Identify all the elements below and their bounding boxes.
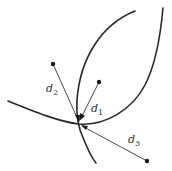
point-d3: [145, 159, 149, 163]
point-d2: [51, 62, 55, 66]
curve-b: [8, 8, 163, 124]
arrowhead-d1-icon: [79, 113, 85, 121]
point-d1: [97, 80, 101, 84]
label-d3: d3: [128, 133, 140, 148]
distance-diagram: d2 d1 d3: [0, 0, 172, 171]
label-d2: d2: [46, 82, 58, 97]
curve-a: [77, 11, 135, 163]
arrowhead-d3-icon: [81, 125, 88, 130]
label-d1: d1: [91, 102, 103, 117]
